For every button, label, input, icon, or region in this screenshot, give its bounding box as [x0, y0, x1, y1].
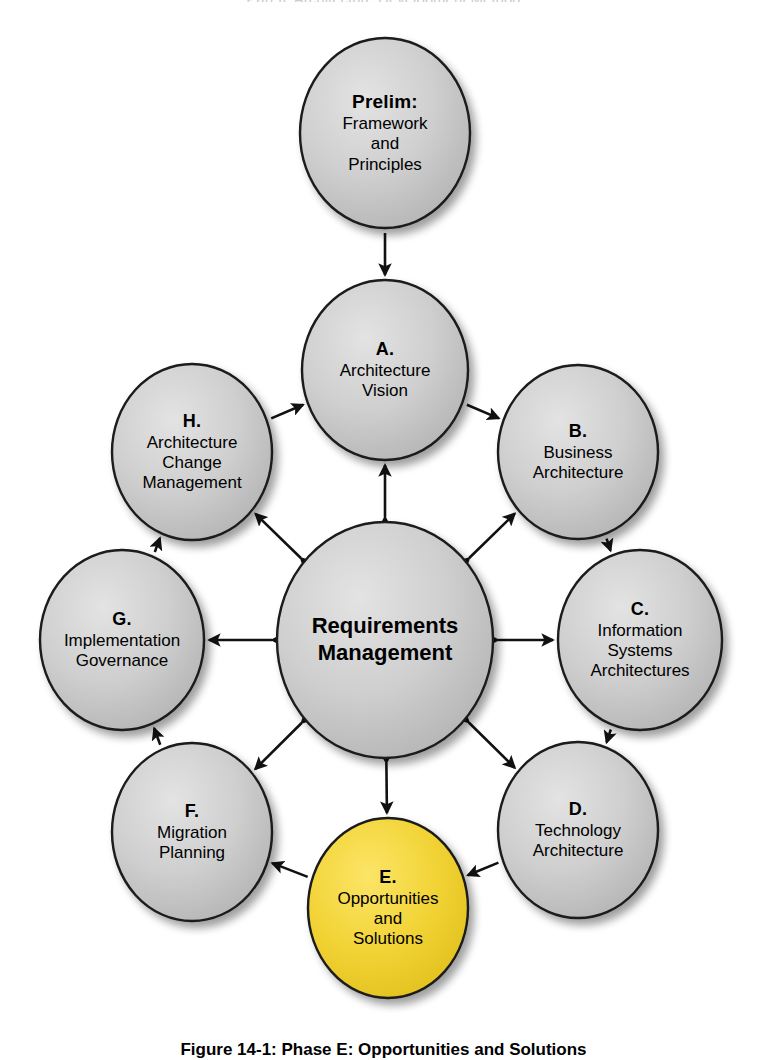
edge-g-h — [155, 538, 160, 552]
nodes-layer — [40, 38, 722, 998]
edge-b-c — [607, 539, 611, 551]
edge-h-a — [271, 405, 303, 419]
edge-center-f — [255, 723, 301, 769]
edge-c-d — [607, 729, 611, 742]
node-circle-d[interactable] — [498, 742, 658, 918]
edge-f-g — [154, 728, 160, 745]
edge-d-e — [468, 863, 499, 876]
node-circle-b[interactable] — [498, 365, 658, 539]
node-circle-center[interactable] — [277, 522, 493, 758]
figure-caption: Figure 14-1: Phase E: Opportunities and … — [0, 1040, 767, 1060]
edge-center-e — [386, 763, 387, 813]
node-circle-h[interactable] — [112, 364, 272, 540]
edge-center-d — [469, 723, 515, 768]
node-circle-a[interactable] — [302, 280, 468, 460]
edge-e-f — [272, 863, 307, 877]
edge-center-h — [255, 514, 300, 558]
node-circle-e[interactable] — [308, 818, 468, 998]
node-circle-f[interactable] — [112, 743, 272, 921]
edge-center-b — [469, 514, 515, 558]
node-circle-g[interactable] — [40, 550, 204, 730]
edge-a-b — [467, 405, 499, 419]
node-circle-c[interactable] — [558, 550, 722, 730]
node-circle-prelim[interactable] — [300, 38, 470, 228]
